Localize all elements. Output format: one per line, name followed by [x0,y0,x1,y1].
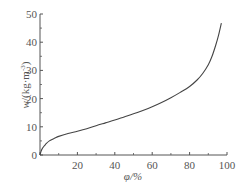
x-axis-label: φ/% [124,170,142,182]
data-series-line [40,23,221,155]
x-tick-label: 80 [184,159,196,171]
tick-labels: 2040608010001020304050 [26,8,236,171]
plot-area [40,23,221,155]
x-tick-label: 40 [109,159,121,171]
x-tick-label: 60 [147,159,159,171]
x-tick-label: 100 [219,159,236,171]
y-tick-label: 40 [26,36,38,48]
y-tick-label: 50 [26,8,38,20]
y-tick-label: 0 [32,149,38,161]
y-tick-label: 10 [26,121,38,133]
x-tick-label: 20 [72,159,84,171]
chart: 2040608010001020304050 φ/% w/(kg·m-3) [0,0,248,188]
